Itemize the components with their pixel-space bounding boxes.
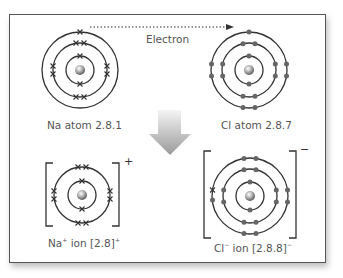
na-ion bbox=[46, 163, 119, 226]
na-atom-label: Na atom 2.8.1 bbox=[47, 119, 122, 131]
cl-atom-label: Cl atom 2.8.7 bbox=[221, 119, 292, 131]
nucleus-icon bbox=[245, 191, 255, 201]
cl-ion-label: Cl− ion [2.8.8]− bbox=[214, 241, 292, 254]
nucleus-icon bbox=[75, 65, 85, 75]
cl-ion bbox=[204, 151, 296, 238]
electron-transfer-arrow bbox=[90, 24, 234, 30]
nucleus-icon bbox=[77, 190, 87, 200]
na-atom bbox=[42, 30, 118, 109]
cl-ion-charge: − bbox=[300, 143, 309, 156]
electron-label: Electron bbox=[146, 33, 189, 45]
na-ion-charge: + bbox=[124, 155, 133, 168]
na-ion-label: Na+ ion [2.8]+ bbox=[48, 236, 120, 249]
nucleus-icon bbox=[244, 65, 254, 75]
cl-atom bbox=[209, 30, 289, 111]
reaction-arrow-icon bbox=[149, 110, 191, 155]
